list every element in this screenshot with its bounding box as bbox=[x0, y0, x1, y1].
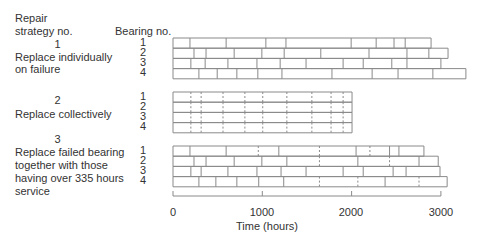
replacement-timeline-chart bbox=[0, 0, 482, 243]
x-tick-label-1000: 1000 bbox=[242, 206, 282, 219]
x-tick-label-0: 0 bbox=[153, 206, 193, 219]
x-tick-label-3000: 3000 bbox=[421, 206, 461, 219]
x-axis-label: Time (hours) bbox=[227, 220, 307, 233]
x-tick-label-2000: 2000 bbox=[331, 206, 371, 219]
